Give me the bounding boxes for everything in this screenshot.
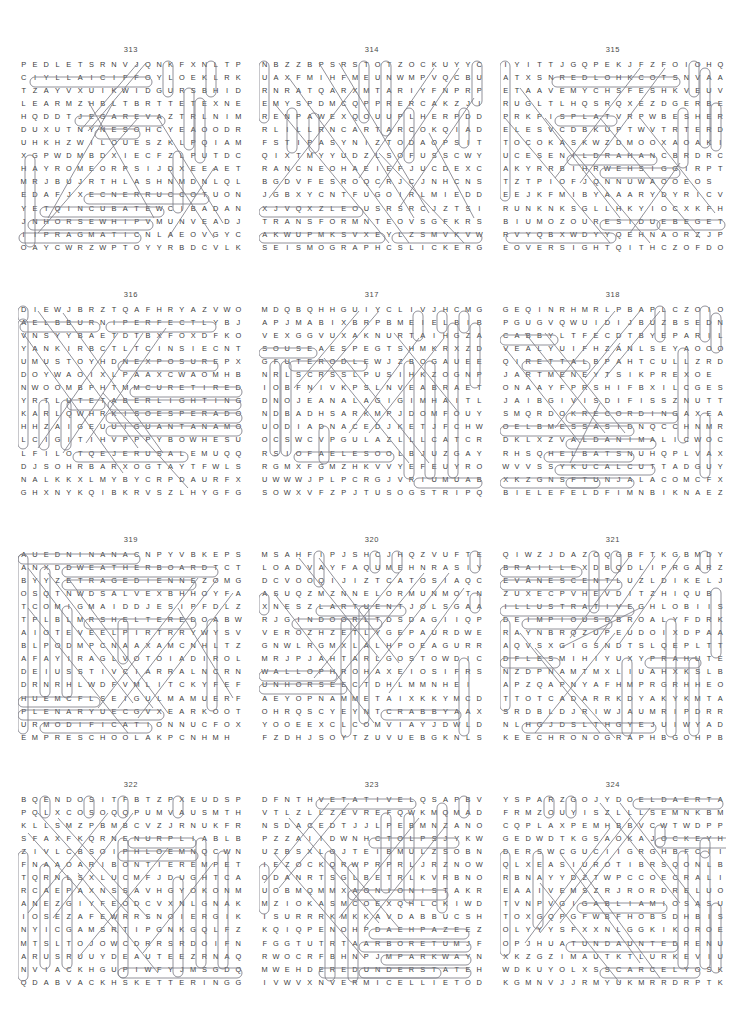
letter-grid[interactable]: GEQINRHMRLPBAPLCZOIOPGUGVQWUIDIJBUZBSEDN…	[500, 303, 726, 499]
grid-letter: R	[462, 215, 473, 228]
grid-letter: A	[97, 561, 108, 574]
grid-letter: E	[406, 381, 417, 394]
grid-letter: D	[165, 162, 176, 175]
grid-letter: Q	[29, 110, 40, 123]
grid-letter: L	[406, 110, 417, 123]
grid-letter: A	[282, 871, 293, 884]
letter-grid[interactable]: YSPARZGOJYDOELDAERTAFRMZOUYISZLLLSEMNKBM…	[500, 793, 726, 989]
grid-letter: P	[474, 613, 485, 626]
grid-letter: J	[383, 355, 394, 368]
grid-letter: S	[327, 897, 338, 910]
grid-letter: M	[451, 692, 462, 705]
grid-letter: D	[165, 871, 176, 884]
grid-letter: A	[624, 731, 635, 744]
puzzle-316[interactable]: 316 DIEWJBRZTQAFHRYAZVWOAELBBURNIPERFECT…	[18, 289, 244, 534]
grid-letter: B	[417, 731, 428, 744]
grid-letter: C	[462, 692, 473, 705]
puzzle-320[interactable]: 320 MSAHFIPJSHCJHQZVUFTELOADVAYFAQUMEHNR…	[259, 534, 485, 779]
grid-letter: R	[270, 652, 281, 665]
puzzle-318[interactable]: 318 GEQINRHMRLPBAPLCZOIOPGUGVQWUIDIJBUZB…	[500, 289, 726, 534]
grid-letter: R	[327, 963, 338, 976]
puzzle-315[interactable]: 315 IYITTJGQPEKJFZFOIOHQATXSNREDLOHKCOTS…	[500, 44, 726, 289]
grid-wrap: DIEWJBRZTQAFHRYAZVWOAELBBURNIPERFECTLYBJ…	[18, 303, 244, 499]
grid-letter: R	[315, 355, 326, 368]
grid-letter: R	[462, 84, 473, 97]
grid-letter: B	[715, 858, 726, 871]
grid-letter: L	[63, 71, 74, 84]
grid-letter: O	[534, 136, 545, 149]
grid-letter: O	[428, 136, 439, 149]
grid-letter: Y	[669, 342, 680, 355]
grid-letter: V	[395, 473, 406, 486]
letter-grid[interactable]: IYITTJGQPEKJFZFOIOHQATXSNREDLOHKCOTSNVAA…	[500, 58, 726, 254]
letter-grid[interactable]: MDQBQHHGUIYCLIVJHCMGAPJMABIXBRPBMEIELBIB…	[259, 303, 485, 499]
grid-letter: Y	[282, 692, 293, 705]
grid-letter: I	[511, 355, 522, 368]
puzzle-321[interactable]: 321 QIWZJDAZOQGBFTKGBMDYBRAILLEXDBQDLIPR…	[500, 534, 726, 779]
grid-letter: S	[233, 548, 244, 561]
puzzle-319[interactable]: 319 AUEDNINANACNPYVBKEPSANXDDWEATHERBOAR…	[18, 534, 244, 779]
grid-letter: T	[556, 355, 567, 368]
letter-grid[interactable]: BQENDOSITFBTZPXEUDSPPQLXCOSOQQPUMVAUSMTH…	[18, 793, 244, 989]
grid-letter: S	[383, 368, 394, 381]
puzzle-314[interactable]: 314 NBZZBPSRSTOTZOCKUYYCUAXFMIHFMEUNWMPV…	[259, 44, 485, 289]
letter-grid[interactable]: DFNTHVETATIVELQSAPBVVTLZLLZEVREFQWKMQMAD…	[259, 793, 485, 989]
grid-letter: L	[406, 858, 417, 871]
grid-letter: T	[74, 447, 85, 460]
grid-letter: X	[338, 329, 349, 342]
grid-letter: H	[338, 950, 349, 963]
puzzle-322[interactable]: 322 BQENDOSITFBTZPXEUDSPPQLXCOSOQQPUMVAU…	[18, 779, 244, 1014]
grid-letter: X	[624, 97, 635, 110]
grid-letter: T	[372, 84, 383, 97]
grid-letter: Y	[417, 718, 428, 731]
grid-letter: A	[681, 342, 692, 355]
grid-letter: D	[624, 692, 635, 705]
grid-letter: U	[417, 149, 428, 162]
grid-letter: I	[282, 123, 293, 136]
grid-letter: J	[282, 652, 293, 665]
grid-letter: N	[304, 613, 315, 626]
grid-letter: N	[545, 71, 556, 84]
grid-letter: I	[304, 832, 315, 845]
grid-letter: T	[131, 342, 142, 355]
grid-letter: H	[142, 123, 153, 136]
puzzle-323[interactable]: 323 DFNTHVETATIVELQSAPBVVTLZLLZEVREFQWKM…	[259, 779, 485, 1014]
grid-letter: A	[440, 433, 451, 446]
grid-letter: P	[233, 58, 244, 71]
grid-letter: T	[462, 394, 473, 407]
letter-grid[interactable]: PEDLETSRNVJQNKFXNLTPCIYLLAICIFFOYLOEKLRK…	[18, 58, 244, 254]
grid-letter: L	[417, 845, 428, 858]
letter-grid[interactable]: NBZZBPSRSTOTZOCKUYYCUAXFMIHFMEUNWMPVQCBU…	[259, 58, 485, 254]
letter-grid[interactable]: DIEWJBRZTQAFHRYAZVWOAELBBURNIPERFECTLYBJ…	[18, 303, 244, 499]
grid-letter: E	[29, 58, 40, 71]
grid-letter: A	[304, 110, 315, 123]
grid-letter: B	[715, 665, 726, 678]
grid-letter: F	[602, 678, 613, 691]
grid-letter: L	[221, 241, 232, 254]
grid-letter: V	[511, 574, 522, 587]
grid-letter: T	[210, 561, 221, 574]
letter-grid[interactable]: QIWZJDAZOQGBFTKGBMDYBRAILLEXDBQDLIPRGARZ…	[500, 548, 726, 744]
grid-letter: D	[282, 819, 293, 832]
grid-letter: A	[293, 832, 304, 845]
grid-letter: O	[669, 600, 680, 613]
grid-letter: G	[131, 420, 142, 433]
grid-letter: B	[74, 329, 85, 342]
grid-letter: I	[462, 561, 473, 574]
puzzle-317[interactable]: 317 MDQBQHHGUIYCLIVJHCMGAPJMABIXBRPBMEIE…	[259, 289, 485, 534]
puzzle-313[interactable]: 313 PEDLETSRNVJQNKFXNLTPCIYLLAICIFFOYLOE…	[18, 44, 244, 289]
grid-letter: L	[372, 652, 383, 665]
grid-letter: A	[282, 561, 293, 574]
grid-letter: I	[669, 574, 680, 587]
puzzle-324[interactable]: 324 YSPARZGOJYDOELDAERTAFRMZOUYISZLLLSEM…	[500, 779, 726, 1014]
grid-letter: M	[395, 316, 406, 329]
grid-letter: X	[602, 665, 613, 678]
grid-letter: U	[176, 871, 187, 884]
letter-grid[interactable]: AUEDNINANACNPYVBKEPSANXDDWEATHERBOARDTCT…	[18, 548, 244, 744]
grid-letter: U	[97, 420, 108, 433]
grid-letter: S	[451, 136, 462, 149]
letter-grid[interactable]: MSAHFIPJSHCJHQZVUFTELOADVAYFAQUMEHNRASIY…	[259, 548, 485, 744]
grid-letter: T	[406, 329, 417, 342]
grid-letter: L	[417, 976, 428, 989]
grid-letter: N	[176, 574, 187, 587]
